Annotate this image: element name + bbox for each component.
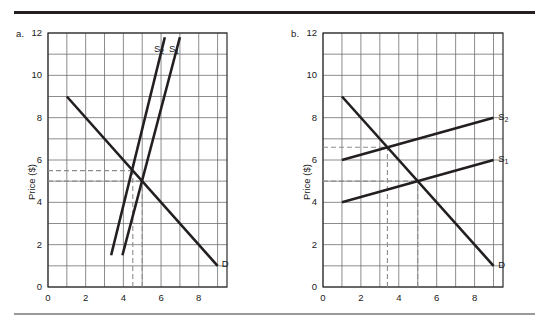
x-tick-label: 6 (149, 292, 173, 303)
curve-label-s2: S2 (498, 111, 508, 122)
figure-container: a. Price ($) 02468101202468S2S1D b. Pric… (0, 0, 549, 330)
y-tick-label: 2 (20, 239, 42, 250)
x-tick-label: 4 (387, 292, 411, 303)
y-tick-label: 0 (295, 281, 317, 292)
y-tick-label: 2 (295, 239, 317, 250)
curve-label-d: D (222, 258, 229, 269)
curve-S1 (122, 37, 179, 255)
x-tick-label: 2 (74, 292, 98, 303)
curve-label-base: S (498, 111, 504, 122)
y-tick-label: 8 (20, 112, 42, 123)
curve-label-base: D (498, 259, 505, 270)
curve-label-base: S (498, 153, 504, 164)
y-tick-label: 6 (20, 154, 42, 165)
y-tick-label: 6 (295, 154, 317, 165)
x-tick-label: 4 (111, 292, 135, 303)
y-tick-label: 12 (20, 27, 42, 38)
curve-label-s1: S1 (169, 43, 179, 54)
curve-S2 (111, 37, 165, 255)
panel-b: b. Price ($) 02468101202468S2S1D (275, 0, 549, 330)
x-tick-label: 2 (349, 292, 373, 303)
y-tick-label: 4 (295, 196, 317, 207)
panel-a: a. Price ($) 02468101202468S2S1D (0, 0, 275, 330)
curve-label-d: D (498, 259, 505, 270)
x-tick-label: 8 (463, 292, 487, 303)
curve-label-subscript: 2 (505, 116, 509, 123)
curve-label-subscript: 2 (160, 48, 164, 55)
x-tick-label: 8 (187, 292, 211, 303)
curve-label-s2: S2 (154, 43, 164, 54)
y-tick-label: 12 (295, 27, 317, 38)
x-tick-label: 0 (311, 292, 335, 303)
y-tick-label: 4 (20, 196, 42, 207)
y-tick-label: 10 (20, 69, 42, 80)
curve-label-s1: S1 (498, 153, 508, 164)
x-tick-label: 6 (425, 292, 449, 303)
y-tick-label: 0 (20, 281, 42, 292)
curve-label-subscript: 1 (505, 158, 509, 165)
curve-label-subscript: 1 (175, 48, 179, 55)
y-tick-label: 8 (295, 112, 317, 123)
x-tick-label: 0 (36, 292, 60, 303)
curve-label-base: D (222, 258, 229, 269)
y-tick-label: 10 (295, 69, 317, 80)
